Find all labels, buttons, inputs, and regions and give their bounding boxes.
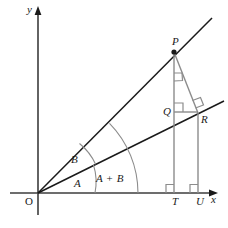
ray-OR (38, 101, 224, 193)
angle-label-A: A (74, 178, 81, 189)
point-label-U: U (196, 196, 204, 207)
y-axis-arrowhead (35, 6, 42, 15)
point-label-P: P (172, 36, 179, 47)
right-angle-mark-Q (174, 103, 183, 112)
right-angle-mark-P (174, 73, 183, 81)
x-axis-label: x (211, 194, 216, 205)
ray-OP (38, 18, 212, 193)
angle-arc-B (80, 144, 96, 165)
point-label-Q: Q (163, 106, 171, 117)
segment-PR (174, 52, 198, 113)
point-label-R: R (201, 114, 208, 125)
right-angle-mark-T (166, 185, 174, 194)
angle-label-B: B (71, 154, 78, 165)
angle-label-A-plus-B: A + B (96, 173, 124, 184)
right-angle-mark-U (190, 185, 198, 194)
point-markers (171, 49, 176, 54)
rays-group (38, 18, 224, 193)
origin-label: O (25, 196, 33, 207)
point-label-T: T (172, 196, 178, 207)
geometry-figure: y x O P Q R T U A B A + B (0, 0, 228, 228)
figure-canvas (0, 0, 228, 228)
y-axis-label: y (27, 4, 32, 15)
point-marker-P (171, 49, 176, 54)
